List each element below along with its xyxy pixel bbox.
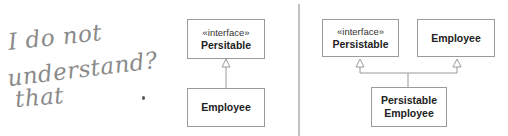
class-name-line-2: Employee	[384, 107, 434, 120]
class-name-line-1: Persistable	[381, 94, 437, 107]
class-name: Employee	[201, 101, 251, 114]
interface-name: Persistable	[332, 38, 388, 51]
class-box-employee: Employee	[417, 19, 495, 57]
interface-box-persistable: «interface» Persistable	[322, 19, 399, 57]
generalization-arrow-icon	[453, 59, 461, 67]
stereotype-label: «interface»	[202, 27, 249, 39]
interface-name: Persitable	[201, 39, 251, 52]
interface-box-persitable: «interface» Persitable	[187, 19, 265, 59]
stereotype-label: «interface»	[337, 26, 384, 38]
class-box-persistable-employee: Persistable Employee	[371, 87, 447, 127]
realization-arrow-icon	[356, 59, 364, 67]
realization-arrow-icon	[222, 59, 230, 67]
class-box-employee: Employee	[187, 88, 265, 127]
class-name: Employee	[431, 32, 481, 45]
